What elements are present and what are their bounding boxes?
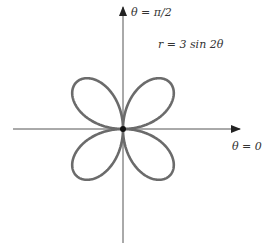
origin-point — [120, 126, 126, 132]
polar-rose-chart: θ = π/2 r = 3 sin 2θ θ = 0 — [0, 0, 268, 251]
polar-axis-label: θ = 0 — [232, 140, 262, 153]
equation-label: r = 3 sin 2θ — [158, 38, 224, 51]
vertical-axis-label: θ = π/2 — [131, 6, 172, 19]
